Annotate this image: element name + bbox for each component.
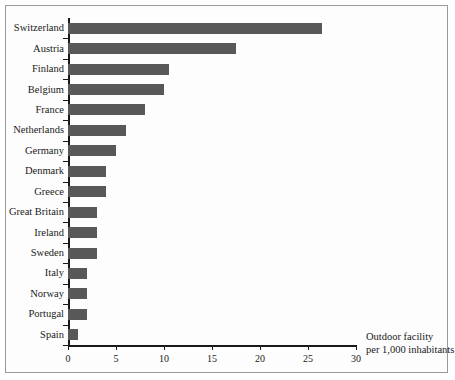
bar xyxy=(68,104,145,115)
bar xyxy=(68,43,236,54)
bar xyxy=(68,288,87,299)
category-label: Greece xyxy=(6,186,64,197)
y-axis-tick xyxy=(63,182,68,183)
bar xyxy=(68,309,87,320)
x-axis-tick-label: 10 xyxy=(152,353,176,364)
y-axis-tick xyxy=(63,222,68,223)
bar xyxy=(68,23,322,34)
category-label: Portugal xyxy=(6,308,64,319)
x-axis-tick-label: 0 xyxy=(56,353,80,364)
category-label: Belgium xyxy=(6,84,64,95)
x-axis-tick xyxy=(212,345,213,350)
category-label: Switzerland xyxy=(6,22,64,33)
bar xyxy=(68,64,169,75)
category-label: Spain xyxy=(6,329,64,340)
x-axis-tick xyxy=(260,345,261,350)
x-axis-tick-label: 30 xyxy=(344,353,368,364)
x-axis-caption: Outdoor facility per 1,000 inhabitants xyxy=(366,330,454,356)
category-label: France xyxy=(6,104,64,115)
x-axis-tick-label: 20 xyxy=(248,353,272,364)
category-label: Germany xyxy=(6,145,64,156)
x-axis-tick xyxy=(308,345,309,350)
y-axis-tick xyxy=(63,100,68,101)
y-axis-tick xyxy=(63,120,68,121)
bar xyxy=(68,84,164,95)
y-axis-tick xyxy=(63,161,68,162)
y-axis-tick xyxy=(63,38,68,39)
y-axis-tick xyxy=(63,59,68,60)
x-axis-tick xyxy=(116,345,117,350)
x-axis-tick-label: 15 xyxy=(200,353,224,364)
y-axis-tick xyxy=(63,263,68,264)
category-label: Finland xyxy=(6,63,64,74)
y-axis-tick xyxy=(63,202,68,203)
bar xyxy=(68,268,87,279)
category-label: Norway xyxy=(6,288,64,299)
bar xyxy=(68,248,97,259)
y-axis-tick xyxy=(63,79,68,80)
category-label: Austria xyxy=(6,43,64,54)
caption-line-2: per 1,000 inhabitants xyxy=(366,343,454,356)
category-label: Sweden xyxy=(6,247,64,258)
category-label: Denmark xyxy=(6,165,64,176)
y-axis-tick xyxy=(63,284,68,285)
bar xyxy=(68,186,106,197)
category-label: Italy xyxy=(6,267,64,278)
bar xyxy=(68,329,78,340)
bar-chart: SwitzerlandAustriaFinlandBelgiumFranceNe… xyxy=(0,0,455,380)
y-axis-tick xyxy=(63,325,68,326)
caption-line-1: Outdoor facility xyxy=(366,330,454,343)
bar xyxy=(68,125,126,136)
x-axis-tick-label: 5 xyxy=(104,353,128,364)
x-axis-tick xyxy=(68,345,69,350)
y-axis-tick xyxy=(63,243,68,244)
bar xyxy=(68,166,106,177)
category-label: Great Britain xyxy=(6,206,64,217)
y-axis-tick xyxy=(63,141,68,142)
x-axis-tick xyxy=(164,345,165,350)
x-axis-tick xyxy=(356,345,357,350)
bar xyxy=(68,207,97,218)
x-axis-tick-label: 25 xyxy=(296,353,320,364)
category-label: Netherlands xyxy=(6,124,64,135)
y-axis-tick xyxy=(63,304,68,305)
category-label: Ireland xyxy=(6,227,64,238)
bar xyxy=(68,227,97,238)
bar xyxy=(68,145,116,156)
